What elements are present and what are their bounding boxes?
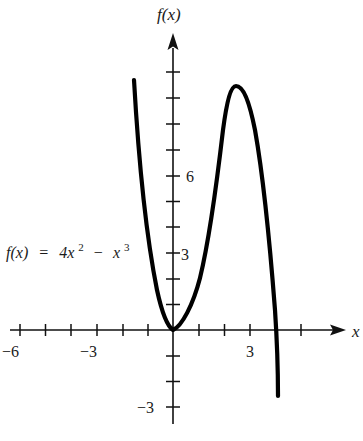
equation-term-b: x <box>112 244 120 261</box>
x-tick-label-neg3: −3 <box>80 343 97 360</box>
y-axis-arrow-icon <box>168 33 179 50</box>
equation-minus: − <box>94 244 103 261</box>
y-tick-label-3: 3 <box>181 246 189 263</box>
y-tick-label-neg3: −3 <box>137 399 154 416</box>
x-axis-label: x <box>351 322 360 341</box>
function-equation: f(x) = 4x 2 − x 3 <box>6 237 130 262</box>
equation-term-a: 4x <box>59 244 74 261</box>
x-tick-label-3: 3 <box>246 343 254 360</box>
equation-equals: = <box>39 244 48 261</box>
y-axis <box>166 33 180 424</box>
function-plot: f(x) x −6 −3 3 6 3 −3 f(x) = 4x 2 − x 3 <box>0 0 363 441</box>
equation-term-b-exponent: 3 <box>124 241 130 253</box>
svg-text:f(x) = 4x 2: f(x) = 4x 2 − x 3 <box>6 237 130 262</box>
y-axis-label: f(x) <box>157 5 181 24</box>
x-tick-label-neg6: −6 <box>2 343 19 360</box>
equation-lhs: f(x) <box>6 244 28 262</box>
y-tick-label-6: 6 <box>186 168 194 185</box>
equation-term-a-exponent: 2 <box>78 241 84 253</box>
function-curve <box>134 80 278 396</box>
